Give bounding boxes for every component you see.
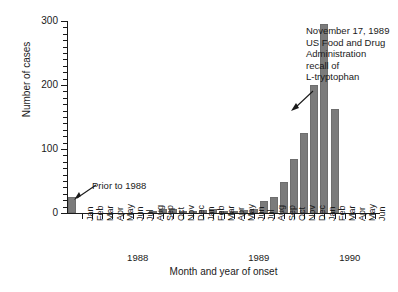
x-axis-month-label: May [126, 204, 135, 221]
y-axis-tick-label: 300 [18, 16, 58, 26]
epidemic-curve-chart: Number of cases 0100200300 JanFebMarAprM… [0, 0, 398, 292]
x-axis-month-label: Apr [237, 207, 246, 221]
x-axis-month-label: Jan [86, 206, 95, 221]
x-axis-title: Month and year of onset [67, 266, 380, 277]
x-axis-month-label: Jun [257, 206, 266, 221]
x-axis-month-label: Oct [298, 207, 307, 221]
x-axis-month-label: Apr [358, 207, 367, 221]
x-axis-month-label: Feb [338, 205, 347, 221]
x-axis-month-label: Oct [177, 207, 186, 221]
annotation-prior-arrow-icon [72, 183, 100, 203]
y-axis-tick-label: 0 [18, 208, 58, 218]
annotation-fda-recall: November 17, 1989 US Food and Drug Admin… [306, 25, 389, 83]
bar [331, 109, 339, 213]
x-axis-month-label: Jan [328, 206, 337, 221]
x-axis-month-label: Jun [378, 206, 387, 221]
x-axis-month-label: May [368, 204, 377, 221]
x-axis-month-label: Aug [156, 205, 165, 221]
x-axis-month-label: Sep [166, 205, 175, 221]
x-axis-month-label: May [247, 204, 256, 221]
x-axis-month-label: Aug [277, 205, 286, 221]
bar [300, 133, 308, 213]
x-axis-month-label: Mar [106, 206, 115, 222]
x-axis-year-label: 1989 [239, 253, 279, 263]
x-axis-tick [82, 214, 83, 219]
x-axis-month-label: Feb [217, 205, 226, 221]
x-axis-month-label: Jul [146, 209, 155, 221]
x-axis-month-label: Jun [136, 206, 145, 221]
x-axis-month-label: Dec [318, 205, 327, 221]
annotation-prior-to-1988: Prior to 1988 [92, 180, 146, 192]
x-axis-month-label: Dec [197, 205, 206, 221]
x-axis-month-label: Mar [227, 206, 236, 222]
x-axis-year-label: 1988 [118, 253, 158, 263]
x-axis-month-label: Sep [288, 205, 297, 221]
annotation-recall-arrow-icon [288, 88, 316, 114]
x-axis-month-label: Apr [116, 207, 125, 221]
x-axis-month-label: Nov [187, 205, 196, 221]
x-axis-month-label: Mar [348, 206, 357, 222]
x-axis-year-label: 1990 [330, 253, 370, 263]
x-axis-month-label: Nov [308, 205, 317, 221]
y-axis-tick-label: 100 [18, 144, 58, 154]
x-axis-month-label: Feb [96, 205, 105, 221]
y-axis-tick-label: 200 [18, 80, 58, 90]
x-axis-month-label: Jan [207, 206, 216, 221]
